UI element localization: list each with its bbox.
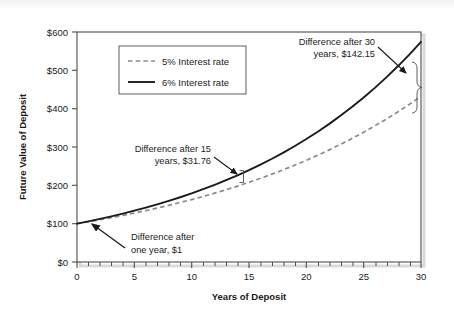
y-tick-label: $0 — [57, 257, 68, 268]
annotation-diff-one-year-line1: Difference after — [131, 232, 194, 242]
x-axis-tick-labels: 0 5 10 15 20 25 30 — [74, 271, 426, 282]
y-tick-label: $400 — [47, 103, 68, 114]
annotation-diff-one-year-line2: one year, $1 — [131, 245, 182, 255]
x-tick-label: 10 — [186, 271, 197, 282]
legend-label-6-percent: 6% Interest rate — [162, 77, 229, 88]
annotation-diff-30-years-line1: Difference after 30 — [299, 37, 375, 47]
y-tick-label: $300 — [47, 142, 68, 153]
y-tick-label: $200 — [47, 180, 68, 191]
x-tick-label: 25 — [358, 271, 369, 282]
y-tick-label: $600 — [47, 27, 68, 38]
future-value-of-deposit-line-chart: $600 $500 $400 $300 $200 $100 $0 Future … — [0, 0, 454, 315]
y-tick-label: $100 — [47, 218, 68, 229]
chart-figure: $600 $500 $400 $300 $200 $100 $0 Future … — [0, 0, 454, 315]
x-tick-label: 30 — [416, 271, 427, 282]
y-tick-label: $500 — [47, 65, 68, 76]
y-axis-ticks — [72, 32, 77, 262]
x-tick-label: 5 — [132, 271, 137, 282]
legend-label-5-percent: 5% Interest rate — [162, 56, 229, 67]
x-tick-label: 20 — [301, 271, 312, 282]
legend: 5% Interest rate 6% Interest rate — [119, 46, 246, 94]
x-tick-label: 15 — [244, 271, 255, 282]
annotation-diff-15-years-line2: years, $31.76 — [155, 156, 211, 166]
annotation-diff-30-years-line2: years, $142.15 — [313, 49, 375, 59]
y-axis-title: Future Value of Deposit — [17, 93, 28, 200]
x-axis-title: Years of Deposit — [212, 291, 287, 302]
y-axis-tick-labels: $600 $500 $400 $300 $200 $100 $0 — [47, 27, 68, 268]
x-tick-label: 0 — [74, 271, 79, 282]
annotation-diff-15-years-line1: Difference after 15 — [135, 144, 211, 154]
